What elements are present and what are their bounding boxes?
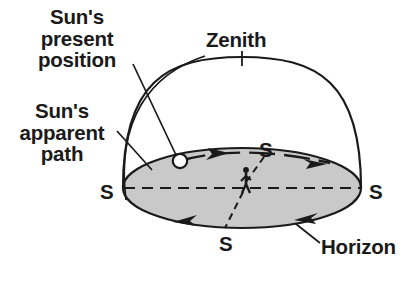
label-horizon: Horizon [321,236,396,258]
sun-present-position-marker [173,154,187,168]
sun-apparent-path-leader-line [117,131,152,170]
label-zenith: Zenith [206,29,266,51]
label-cardinal-south: S [219,232,233,256]
horizon-leader-line [296,224,320,243]
label-cardinal-west: S [100,180,114,204]
label-cardinal-north: S [259,138,273,162]
label-sun-present-position: Sun's present position [18,6,136,71]
sun-present-position-leader-line [133,64,176,155]
label-cardinal-east: S [369,180,383,204]
label-sun-apparent-path: Sun's apparent path [4,100,120,165]
diagram-canvas: Sun's present position Sun's apparent pa… [0,0,413,289]
